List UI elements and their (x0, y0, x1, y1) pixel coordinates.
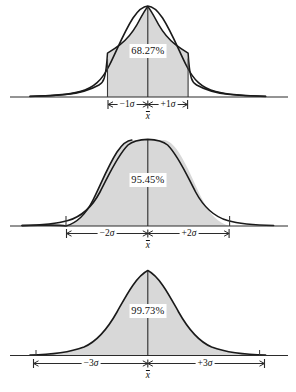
percent-label-2-sigma: 95.45% (129, 173, 166, 187)
distribution-panel-3-sigma: 99.73% −3σ +3σ x (0, 260, 296, 392)
mean-label-3-sigma: x (146, 371, 150, 381)
sigma-glyph-right-2-sigma: σ (192, 228, 197, 238)
right-bound-label-3-sigma: +3σ (196, 359, 215, 369)
sigma-glyph-right-1-sigma: σ (171, 99, 176, 109)
sigma-glyph-left-1-sigma: σ (130, 99, 135, 109)
distribution-panel-1-sigma: 68.27% −1σ +1σ x (0, 0, 296, 128)
sigma-glyph-left-2-sigma: σ (110, 228, 115, 238)
dimension-arrows-2-sigma (67, 229, 230, 238)
normal-distribution-figure: 68.27% −1σ +1σ x (0, 0, 296, 392)
distribution-panel-2-sigma: 95.45% −2σ +2σ x (0, 130, 296, 258)
curve-plot-1-sigma (0, 0, 296, 128)
right-bound-label-2-sigma: +2σ (180, 229, 199, 239)
sigma-glyph-right-3-sigma: σ (208, 358, 213, 368)
mean-label-2-sigma: x (146, 241, 150, 251)
left-bound-label-3-sigma: −3σ (82, 359, 101, 369)
dimension-arrows-3-sigma (34, 359, 265, 368)
left-bound-label-2-sigma: −2σ (98, 229, 117, 239)
left-bound-label-1-sigma: −1σ (118, 100, 137, 110)
mean-x-glyph-2-sigma: x (146, 241, 150, 251)
sigma-glyph-left-3-sigma: σ (94, 358, 99, 368)
right-bound-label-1-sigma: +1σ (159, 100, 178, 110)
percent-label-3-sigma: 99.73% (129, 304, 166, 318)
mean-label-1-sigma: x (146, 112, 150, 122)
mean-x-glyph-3-sigma: x (146, 371, 150, 381)
percent-label-1-sigma: 68.27% (129, 44, 166, 58)
mean-x-glyph-1-sigma: x (146, 112, 150, 122)
